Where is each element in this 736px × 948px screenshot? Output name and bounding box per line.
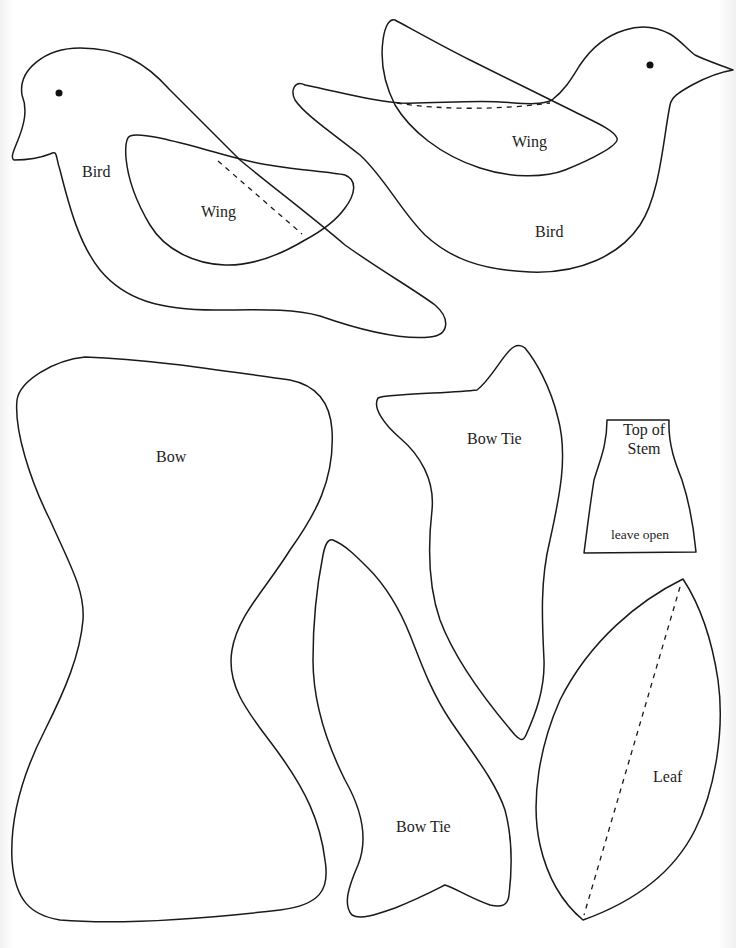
wing-left-label: Wing (201, 203, 236, 221)
pattern-pieces (0, 0, 736, 948)
bird-right-eye-icon (647, 62, 654, 69)
top-of-stem-label-line1: Top of (604, 421, 684, 439)
leaf-label: Leaf (653, 768, 682, 786)
bow-outline (12, 357, 333, 922)
leaf-fold-line (584, 587, 680, 915)
pattern-page: Bird Wing Wing Bird Bow Bow Tie Bow Tie … (0, 0, 736, 948)
wing-right-outline (382, 20, 617, 176)
leaf-outline (536, 579, 720, 920)
wing-right-label: Wing (512, 133, 547, 151)
bird-left-eye-icon (56, 90, 63, 97)
bow-tie-top-outline (377, 346, 563, 740)
wing-left-fold-line (218, 161, 302, 234)
bird-left-label: Bird (82, 163, 110, 181)
bird-left-outline (12, 48, 445, 338)
bow-tie-bottom-outline (313, 540, 511, 917)
top-of-stem-note: leave open (595, 527, 685, 543)
bow-tie-top-label: Bow Tie (467, 430, 522, 448)
top-of-stem-label-line2: Stem (604, 440, 684, 458)
bird-right-label: Bird (535, 223, 563, 241)
wing-left-outline (126, 135, 354, 265)
bow-label: Bow (156, 448, 186, 466)
bow-tie-bottom-label: Bow Tie (396, 818, 451, 836)
